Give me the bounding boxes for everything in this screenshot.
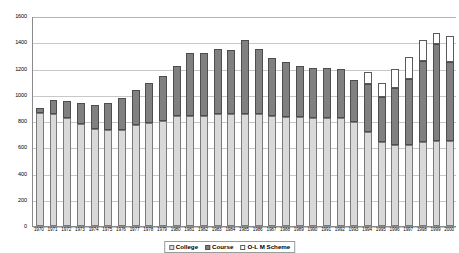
bar-segment [268,116,276,226]
bar-segment [309,118,317,226]
x-tick-label: 1977 [130,228,140,233]
bar-segment [214,114,222,226]
bar-segment [364,84,372,131]
bar-segment [419,40,427,61]
x-tick-label: 1984 [225,228,235,233]
bar-group [364,16,372,226]
bar-group [378,16,386,226]
legend-swatch-icon [240,245,245,250]
legend-label: Course [212,244,233,250]
bar-segment [405,79,413,145]
bar-segment [268,58,276,116]
bar-segment [282,117,290,226]
y-tick-label: 1200 [15,67,27,73]
x-tick-label: 1970 [34,228,44,233]
bar-group [159,16,167,226]
x-tick-label: 1971 [48,228,58,233]
bar-segment [145,123,153,226]
y-tick-label: 400 [18,172,27,178]
bar-segment [241,114,249,226]
x-tick-label: 1994 [362,228,372,233]
bar-segment [186,53,194,116]
bar-segment [132,90,140,125]
plot-area [32,17,456,227]
x-tick-label: 1995 [376,228,386,233]
bar-segment [391,69,399,89]
bar-segment [378,142,386,226]
bar-segment [364,72,372,84]
x-tick-label: 1978 [143,228,153,233]
bar-segment [91,105,99,129]
bars-layer [33,17,456,226]
bar-group [405,16,413,226]
bar-segment [50,100,58,114]
x-tick-label: 1985 [239,228,249,233]
x-tick-label: 1981 [184,228,194,233]
bar-group [227,16,235,226]
bar-segment [118,98,126,130]
bar-segment [63,118,71,226]
chart-legend: CollegeCourseO-L M Scheme [164,241,296,253]
bar-group [296,16,304,226]
bar-group [391,16,399,226]
bar-group [446,16,454,226]
bar-segment [350,80,358,122]
legend-item: College [169,244,198,250]
x-tick-label: 1992 [335,228,345,233]
bar-segment [337,118,345,226]
bar-segment [323,68,331,118]
bar-segment [241,40,249,114]
bar-segment [50,114,58,226]
bar-group [282,16,290,226]
x-tick-label: 1999 [431,228,441,233]
x-tick-label: 1997 [403,228,413,233]
bar-segment [378,83,386,97]
bar-segment [433,44,441,141]
x-tick-label: 1989 [294,228,304,233]
y-axis: 02004006008001000120014001600 [0,17,30,227]
bar-group [104,16,112,226]
bar-segment [433,141,441,226]
legend-swatch-icon [205,245,210,250]
x-tick-label: 1986 [253,228,263,233]
x-tick-label: 1993 [348,228,358,233]
bar-group [118,16,126,226]
x-tick-label: 1996 [390,228,400,233]
x-tick-label: 1972 [61,228,71,233]
bar-segment [419,61,427,142]
bar-segment [104,130,112,226]
x-tick-label: 1991 [321,228,331,233]
bar-group [309,16,317,226]
bar-group [433,16,441,226]
bar-segment [296,66,304,117]
bar-segment [145,83,153,123]
bar-segment [173,116,181,226]
x-tick-label: 1979 [157,228,167,233]
bar-segment [77,124,85,226]
y-tick-label: 200 [18,198,27,204]
x-tick-label: 1983 [212,228,222,233]
y-tick-label: 1600 [15,14,27,20]
bar-segment [200,53,208,116]
bar-segment [214,49,222,115]
bar-group [50,16,58,226]
bar-segment [282,62,290,117]
bar-segment [419,142,427,226]
y-tick-label: 1000 [15,93,27,99]
y-tick-label: 800 [18,119,27,125]
bar-segment [405,57,413,79]
bar-segment [446,62,454,141]
bar-group [268,16,276,226]
x-tick-label: 1982 [198,228,208,233]
bar-segment [186,116,194,226]
y-tick-label: 600 [18,146,27,152]
bar-segment [391,88,399,144]
bar-segment [446,141,454,226]
bar-segment [296,117,304,226]
bar-segment [255,49,263,115]
bar-segment [405,145,413,226]
legend-label: O-L M Scheme [247,244,290,250]
y-tick-label: 1400 [15,41,27,47]
bar-segment [433,33,441,44]
